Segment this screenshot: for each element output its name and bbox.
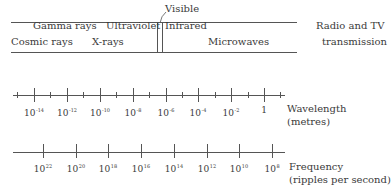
band-label: Infrared: [165, 20, 207, 31]
band-label: transmission: [322, 36, 387, 47]
tick-label: 1016: [132, 161, 150, 174]
tick-label: 1020: [67, 161, 85, 174]
wavelength-unit: (metres): [287, 116, 330, 127]
major-tick: [239, 144, 240, 158]
major-tick: [174, 144, 175, 158]
major-tick: [100, 88, 101, 102]
tick-label: 1: [261, 105, 267, 115]
tick-label: 108: [264, 161, 279, 174]
frequency-title: Frequency: [289, 161, 343, 172]
band-label: X-rays: [92, 36, 124, 47]
major-tick: [76, 144, 77, 158]
band-label: Radio and TV: [316, 20, 384, 31]
major-tick: [207, 144, 208, 158]
wavelength-title: Wavelength: [287, 103, 346, 114]
major-tick: [34, 88, 35, 102]
tick-label: 10-12: [57, 105, 77, 118]
minor-tick: [280, 92, 281, 98]
band-label: Cosmic rays: [11, 36, 73, 47]
tick-label: 10-4: [190, 105, 207, 118]
major-tick: [141, 144, 142, 158]
minor-tick: [149, 92, 150, 98]
major-tick: [108, 144, 109, 158]
minor-tick: [215, 92, 216, 98]
minor-tick: [248, 92, 249, 98]
major-tick: [67, 88, 68, 102]
major-tick: [272, 144, 273, 158]
major-tick: [166, 88, 167, 102]
tick-label: 10-8: [125, 105, 142, 118]
major-tick: [133, 88, 134, 102]
tick-label: 1014: [165, 161, 183, 174]
tick-label: 10-2: [223, 105, 240, 118]
minor-tick: [17, 92, 18, 98]
tick-label: 1010: [230, 161, 248, 174]
band-label: Ultraviolet: [106, 20, 160, 31]
tick-label: 1022: [34, 161, 52, 174]
frequency-unit: (ripples per second): [289, 174, 391, 185]
minor-tick: [83, 92, 84, 98]
major-tick: [198, 88, 199, 102]
tick-label: 10-14: [24, 105, 44, 118]
tick-label: 1012: [198, 161, 216, 174]
tick-label: 10-6: [158, 105, 175, 118]
frequency-axis-line: [13, 152, 285, 153]
major-tick: [264, 88, 265, 102]
major-tick: [231, 88, 232, 102]
major-tick: [43, 144, 44, 158]
band-label: Gamma rays: [33, 20, 97, 31]
minor-tick: [182, 92, 183, 98]
visible-label: Visible: [165, 3, 199, 14]
band-label: Microwaves: [208, 36, 269, 47]
tick-label: 1018: [99, 161, 117, 174]
minor-tick: [116, 92, 117, 98]
minor-tick: [50, 92, 51, 98]
tick-label: 10-10: [90, 105, 110, 118]
